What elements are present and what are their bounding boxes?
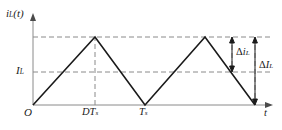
x-axis-label: t (264, 108, 267, 119)
current-waveform (33, 37, 255, 105)
ripple-half-annotation-label: ΔiL (236, 47, 250, 58)
y-axis-arrow (30, 13, 36, 21)
y-axis-label-argument: (t) (13, 7, 23, 19)
duty-time-tick-label-main: DT (82, 106, 95, 117)
ripple-full-arrow-head-down (253, 99, 258, 105)
ripple-full-annotation-label: ΔIL (259, 60, 273, 71)
ripple-full-delta: Δ (259, 59, 266, 70)
duty-time-tick-label: DTs (82, 107, 98, 118)
ripple-half-arrow-head-up (230, 37, 235, 43)
y-axis-label: iL(t) (6, 8, 24, 19)
inductor-current-waveform-figure: iL(t) IL O DTs Ts ΔiL ΔIL t (0, 0, 282, 130)
switch-period-tick-label: Ts (139, 107, 148, 118)
ripple-half-delta: Δ (236, 46, 243, 57)
duty-time-tick-label-subscript: s (95, 109, 98, 117)
ripple-full-subscript: L (269, 62, 273, 70)
axis-group (33, 18, 268, 105)
ripple-half-subscript: L (246, 49, 250, 57)
switch-period-tick-label-subscript: s (145, 109, 148, 117)
average-current-label: IL (16, 65, 24, 76)
average-current-label-subscript: L (20, 67, 24, 76)
ripple-full-arrow-head-up (253, 37, 258, 43)
origin-label: O (24, 107, 32, 118)
